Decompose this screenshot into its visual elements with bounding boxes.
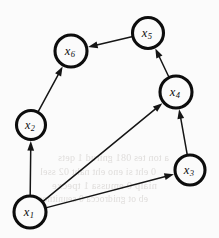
graph-node-x3[interactable]: x3 xyxy=(175,155,205,185)
graph-edge-x1-to-x4 xyxy=(43,103,162,201)
directed-graph-canvas: x1x2x3x4x5x6 xyxy=(0,0,219,238)
edge-shaft xyxy=(30,149,31,195)
edge-shaft xyxy=(47,176,167,207)
graph-edge-x3-to-x4 xyxy=(177,109,187,154)
graph-node-x5[interactable]: x5 xyxy=(133,18,164,49)
graph-node-x1[interactable]: x1 xyxy=(14,196,46,228)
edge-shaft xyxy=(96,37,132,45)
graph-edge-x1-to-x3 xyxy=(47,173,174,207)
edge-arrowhead xyxy=(164,173,174,180)
graph-edge-x1-to-x2 xyxy=(27,141,34,195)
edge-arrowhead xyxy=(177,109,184,119)
edges-group xyxy=(27,37,187,208)
graph-edge-x5-to-x6 xyxy=(88,37,132,48)
graph-node-x2[interactable]: x2 xyxy=(17,111,46,140)
graph-edge-x2-to-x6 xyxy=(38,66,62,111)
edge-arrowhead xyxy=(55,66,63,76)
edge-shaft xyxy=(159,55,169,76)
edge-shaft xyxy=(180,117,187,154)
nodes-group: x1x2x3x4x5x6 xyxy=(14,18,205,229)
edge-arrowhead xyxy=(88,42,98,49)
graph-node-x6[interactable]: x6 xyxy=(55,35,87,67)
edge-arrowhead xyxy=(27,141,34,151)
graph-edge-x4-to-x5 xyxy=(155,48,168,76)
edge-shaft xyxy=(43,108,156,201)
figure-container: a ton tes 081 gnirud 1 qets0 eht si eno … xyxy=(0,0,219,238)
edge-arrowhead xyxy=(155,48,162,58)
graph-node-x4[interactable]: x4 xyxy=(160,76,192,108)
edge-shaft xyxy=(38,73,58,111)
